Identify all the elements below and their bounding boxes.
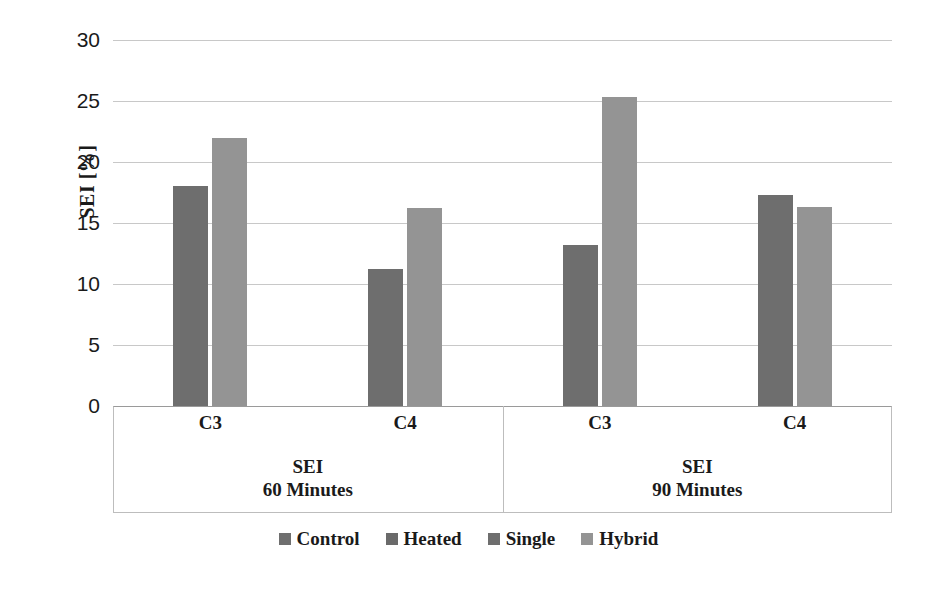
y-axis-tick-labels: 051015202530	[48, 40, 100, 406]
y-tick-label-10: 10	[54, 272, 100, 296]
bar-90-minutes-C3-hybrid	[602, 97, 637, 406]
legend-label-single: Single	[506, 528, 556, 550]
legend-label-hybrid: Hybrid	[599, 528, 658, 550]
legend-item-control[interactable]: Control	[279, 528, 360, 550]
legend-label-control: Control	[297, 528, 360, 550]
bar-60-minutes-C3-hybrid	[212, 138, 247, 406]
y-tick-label-20: 20	[54, 150, 100, 174]
legend-swatch-icon-control	[279, 533, 291, 545]
panel-label-line2: 90 Minutes	[652, 478, 742, 501]
chart-legend: ControlHeatedSingleHybrid	[0, 528, 937, 550]
panel-label-60-minutes: SEI60 Minutes	[263, 455, 353, 501]
y-tick-label-5: 5	[54, 333, 100, 357]
panel-label-line1: SEI	[263, 455, 353, 478]
bar-60-minutes-C3-single	[173, 186, 208, 406]
legend-swatch-icon-single	[488, 533, 500, 545]
gridline-30	[113, 40, 892, 41]
category-label-C3: C3	[588, 412, 611, 434]
bar-chart: SEI [%] 051015202530 C3C4C3C4 SEI60 Minu…	[0, 0, 937, 589]
gridline-25	[113, 101, 892, 102]
bar-90-minutes-C4-single	[758, 195, 793, 406]
y-tick-label-15: 15	[54, 211, 100, 235]
legend-item-hybrid[interactable]: Hybrid	[581, 528, 658, 550]
legend-item-single[interactable]: Single	[488, 528, 556, 550]
category-label-C3: C3	[199, 412, 222, 434]
legend-swatch-icon-hybrid	[581, 533, 593, 545]
bar-60-minutes-C4-single	[368, 269, 403, 406]
panel-label-line1: SEI	[652, 455, 742, 478]
panel-divider-1	[503, 406, 504, 513]
y-tick-label-25: 25	[54, 89, 100, 113]
plot-area	[113, 40, 892, 406]
y-tick-label-30: 30	[54, 28, 100, 52]
bar-90-minutes-C3-single	[563, 245, 598, 406]
bar-60-minutes-C4-hybrid	[407, 208, 442, 406]
legend-item-heated[interactable]: Heated	[386, 528, 462, 550]
legend-label-heated: Heated	[404, 528, 462, 550]
y-tick-label-0: 0	[54, 394, 100, 418]
category-label-C4: C4	[783, 412, 806, 434]
category-label-C4: C4	[394, 412, 417, 434]
panel-label-90-minutes: SEI90 Minutes	[652, 455, 742, 501]
bar-90-minutes-C4-hybrid	[797, 207, 832, 406]
panel-label-line2: 60 Minutes	[263, 478, 353, 501]
legend-swatch-icon-heated	[386, 533, 398, 545]
